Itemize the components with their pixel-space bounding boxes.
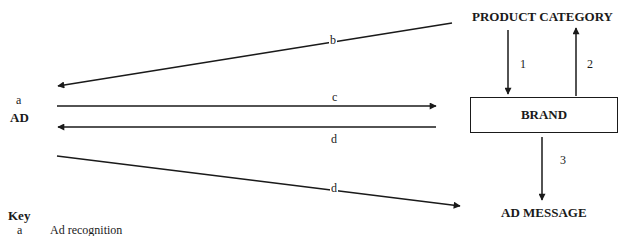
node-product-category: PRODUCT CATEGORY bbox=[472, 10, 613, 23]
edge-label-3: 3 bbox=[559, 154, 567, 166]
edge-label-d-upper: d bbox=[330, 133, 338, 145]
edge-label-1: 1 bbox=[519, 58, 527, 70]
node-ad-message: AD MESSAGE bbox=[501, 206, 587, 219]
key-title: Key bbox=[8, 209, 30, 222]
edge-label-d-lower: d bbox=[330, 182, 338, 194]
node-brand-label: BRAND bbox=[521, 107, 567, 123]
edge-label-c: c bbox=[331, 91, 338, 103]
node-ad-marker: a bbox=[16, 94, 21, 106]
key-item-description: Ad recognition bbox=[50, 224, 122, 236]
node-ad: AD bbox=[10, 111, 29, 124]
edge-b-arrow bbox=[58, 23, 452, 86]
key-item-symbol: a bbox=[17, 224, 22, 236]
node-brand: BRAND bbox=[470, 97, 618, 133]
edge-label-b: b bbox=[329, 34, 337, 46]
edge-d2-arrow bbox=[57, 156, 460, 206]
edge-label-2: 2 bbox=[586, 58, 594, 70]
